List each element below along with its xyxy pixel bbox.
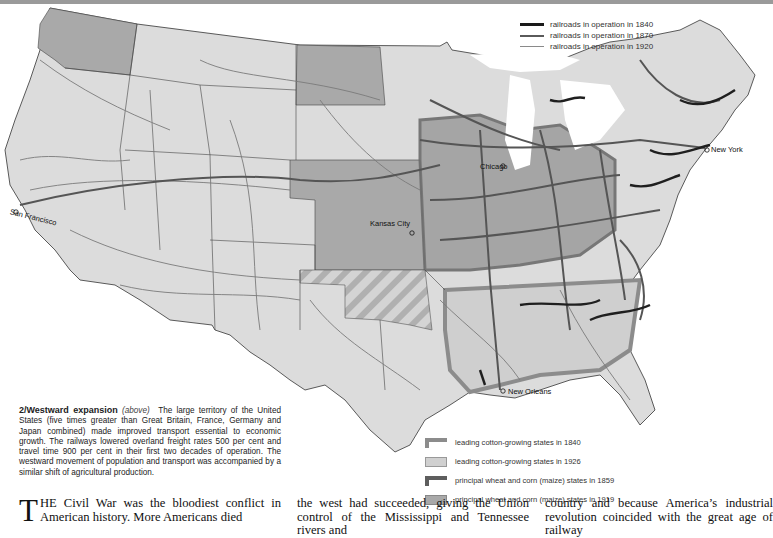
legend-item-railroads-1840: railroads in operation in 1840 [520,19,653,30]
body-text: country and because America’s industrial… [545,496,773,537]
legend-label: principal wheat and corn (maize) states … [455,476,614,485]
caption-title: Westward expansion [27,405,118,415]
legend-label: railroads in operation in 1870 [550,30,653,41]
legend-label: railroads in operation in 1840 [550,19,653,30]
legend-line-1920-icon [520,46,544,47]
north-dakota-wheat-state [296,45,385,105]
legend-label: leading cotton-growing states in 1926 [455,457,581,466]
city-label-new-orleans: New Orleans [508,387,551,396]
legend-item-railroads-1870: railroads in operation in 1870 [520,30,653,41]
drop-cap: T [19,498,38,524]
legend-item-cotton-1840: leading cotton-growing states in 1840 [425,433,614,452]
swatch-wheat-1859-icon [425,476,447,486]
railroad-legend: railroads in operation in 1840 railroads… [520,19,653,52]
legend-line-1840-icon [520,23,544,26]
body-text: the west had succeeded, giving the Union… [297,496,529,537]
legend-label: leading cotton-growing states in 1840 [455,438,581,447]
caption-text: The large territory of the United States… [19,406,281,477]
legend-label: railroads in operation in 1920 [550,41,653,52]
body-text: HE Civil War was the bloodiest conflict … [40,496,281,524]
map-caption: 2/Westward expansion (above) The large t… [19,405,281,478]
swatch-cotton-1926-icon [425,457,447,467]
caption-number: 2/ [19,405,27,415]
city-label-new-york: New York [711,145,743,154]
body-column-2: the west had succeeded, giving the Union… [297,497,529,538]
swatch-cotton-1840-icon [425,438,447,448]
legend-line-1870-icon [520,35,544,37]
caption-ref: (above) [122,406,150,415]
city-label-chicago: Chicago [480,162,508,171]
legend-item-cotton-1926: leading cotton-growing states in 1926 [425,452,614,471]
city-label-kansas-city: Kansas City [370,219,410,228]
body-column-1: THE Civil War was the bloodiest conflict… [19,497,281,524]
legend-item-wheat-1859: principal wheat and corn (maize) states … [425,471,614,490]
body-column-3: country and because America’s industrial… [545,497,773,538]
us-railroad-map [0,0,773,470]
legend-item-railroads-1920: railroads in operation in 1920 [520,41,653,52]
